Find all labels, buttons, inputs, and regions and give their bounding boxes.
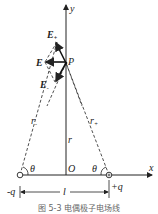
negative-charge-label: -q: [7, 186, 15, 197]
x-axis-label: x: [148, 162, 154, 173]
e-plus-vector: [56, 43, 66, 63]
positive-charge-label: +q: [111, 181, 123, 192]
r-plus-label: r+: [90, 115, 98, 127]
ext-p-line: [66, 63, 82, 106]
theta-left: θ: [30, 163, 35, 174]
dipole-diagram: y x O E+ E E- P r- r+ r θ θ -q +q l 图 5-…: [0, 0, 158, 214]
point-p: [65, 62, 68, 65]
y-axis-label: y: [69, 3, 75, 14]
e-plus-label: E+: [46, 29, 58, 41]
origin-label: O: [68, 163, 75, 174]
angle-arc-left: [23, 167, 28, 175]
r-label: r: [68, 134, 72, 145]
figure-caption: 图 5-3 电偶极子电场线: [38, 203, 120, 213]
e-total-label: E: [35, 57, 43, 68]
e-minus-vector: [56, 63, 66, 81]
l-label: l: [63, 186, 66, 197]
theta-right: θ: [92, 163, 97, 174]
negative-charge: [17, 172, 23, 178]
angle-arc-right: [101, 167, 106, 175]
e-minus-label: E-: [39, 79, 49, 91]
point-p-label: P: [67, 56, 74, 67]
ext-upper-line: [45, 42, 57, 62]
